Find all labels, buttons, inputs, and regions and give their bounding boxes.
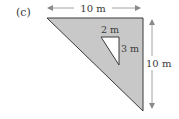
hole-top-label: 2 m [101,24,119,35]
outer-triangle [47,18,143,111]
part-label: (c) [16,6,31,19]
top-dimension-label: 10 m [80,3,106,14]
hole-side-label: 3 m [121,43,139,54]
right-dimension-label: 10 m [146,58,172,69]
triangle-diagram: (c) 10 m 2 m 3 m 10 m [0,0,179,119]
